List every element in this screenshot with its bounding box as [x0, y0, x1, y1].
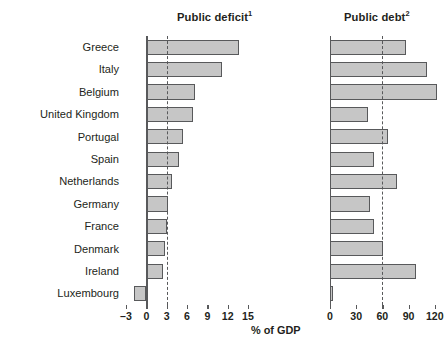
panel-title-text: Public deficit — [177, 11, 248, 23]
bar-row — [330, 170, 440, 192]
x-axis-caption: % of GDP — [251, 324, 301, 336]
axis-tick-label: 9 — [204, 310, 210, 322]
bar-row — [330, 260, 440, 282]
panel-title-text: Public debt — [344, 11, 405, 23]
category-label: United Kingdom — [0, 103, 126, 125]
panel-title-footnote-marker: 2 — [405, 9, 409, 18]
bar-row — [126, 238, 248, 260]
bar-row — [126, 36, 248, 58]
bar-row — [126, 215, 248, 237]
bar — [330, 62, 427, 77]
bar — [330, 129, 388, 144]
axis-tick-mark — [146, 305, 147, 309]
plot-panel-public-debt — [330, 36, 440, 305]
category-label: Italy — [0, 58, 126, 80]
bar-row — [330, 126, 440, 148]
category-label: Netherlands — [0, 170, 126, 192]
bar-row — [126, 58, 248, 80]
reference-line — [167, 36, 168, 305]
zero-axis-line — [146, 36, 147, 305]
x-axis-public-debt: 0306090120 — [330, 305, 440, 327]
bar — [146, 129, 183, 144]
category-axis-labels: GreeceItalyBelgiumUnited KingdomPortugal… — [0, 36, 126, 305]
bar — [146, 174, 172, 189]
category-label: Germany — [0, 193, 126, 215]
bar-row — [126, 126, 248, 148]
axis-tick-label: 12 — [222, 310, 234, 322]
bar — [330, 107, 368, 122]
panel-title-public-deficit: Public deficit1 — [177, 11, 252, 23]
bar-row — [126, 103, 248, 125]
bar-row — [330, 36, 440, 58]
bar-row — [126, 81, 248, 103]
axis-tick-mark — [126, 305, 127, 309]
category-label: France — [0, 215, 126, 237]
axis-tick-label: 3 — [164, 310, 170, 322]
bar — [146, 107, 193, 122]
axis-tick-label: 6 — [184, 310, 190, 322]
bar — [146, 196, 168, 211]
axis-tick-label: 0 — [143, 310, 149, 322]
axis-tick-mark — [167, 305, 168, 309]
category-label: Portugal — [0, 126, 126, 148]
axis-tick-label: –3 — [120, 310, 132, 322]
axis-tick-label: 90 — [403, 310, 415, 322]
bar — [146, 264, 162, 279]
bar-row — [126, 260, 248, 282]
axis-tick-label: 60 — [376, 310, 388, 322]
bar-row — [126, 170, 248, 192]
axis-tick-mark — [356, 305, 357, 309]
bar-row — [126, 282, 248, 304]
category-label: Greece — [0, 36, 126, 58]
axis-tick-mark — [228, 305, 229, 309]
bar-row — [330, 193, 440, 215]
bar — [146, 62, 222, 77]
axis-tick-mark — [409, 305, 410, 309]
panel-title-public-debt: Public debt2 — [344, 11, 410, 23]
bar — [330, 241, 383, 256]
plot-area — [330, 36, 440, 305]
bar-row — [330, 238, 440, 260]
bar — [146, 40, 238, 55]
bar — [146, 152, 179, 167]
category-label: Ireland — [0, 260, 126, 282]
axis-tick-label: 120 — [426, 310, 444, 322]
plot-area — [126, 36, 248, 305]
bar — [134, 286, 146, 301]
category-label: Belgium — [0, 81, 126, 103]
zero-axis-line — [330, 36, 331, 305]
bar — [330, 196, 370, 211]
bar — [330, 40, 406, 55]
bar-row — [330, 215, 440, 237]
figure-public-finances: Public deficit1 Public debt2 GreeceItaly… — [0, 0, 445, 347]
category-label: Spain — [0, 148, 126, 170]
axis-tick-label: 0 — [327, 310, 333, 322]
axis-tick-mark — [330, 305, 331, 309]
bar — [330, 264, 416, 279]
bar-row — [126, 148, 248, 170]
bar-row — [330, 148, 440, 170]
bar — [146, 241, 164, 256]
axis-tick-mark — [248, 305, 249, 309]
bar-row — [126, 193, 248, 215]
axis-tick-mark — [207, 305, 208, 309]
bar — [330, 219, 374, 234]
bar — [330, 152, 374, 167]
reference-line — [382, 36, 383, 305]
axis-tick-label: 15 — [242, 310, 254, 322]
bar-row — [330, 103, 440, 125]
axis-tick-label: 30 — [350, 310, 362, 322]
bar-row — [330, 282, 440, 304]
category-label: Luxembourg — [0, 282, 126, 304]
panel-title-footnote-marker: 1 — [248, 9, 252, 18]
plot-panel-public-deficit — [126, 36, 248, 305]
bar — [146, 219, 166, 234]
bar-row — [330, 81, 440, 103]
bar — [330, 174, 397, 189]
bar-row — [330, 58, 440, 80]
x-axis-public-deficit: –303691215 — [126, 305, 248, 327]
bar — [146, 84, 195, 99]
axis-tick-mark — [187, 305, 188, 309]
category-label: Denmark — [0, 238, 126, 260]
axis-tick-mark — [435, 305, 436, 309]
